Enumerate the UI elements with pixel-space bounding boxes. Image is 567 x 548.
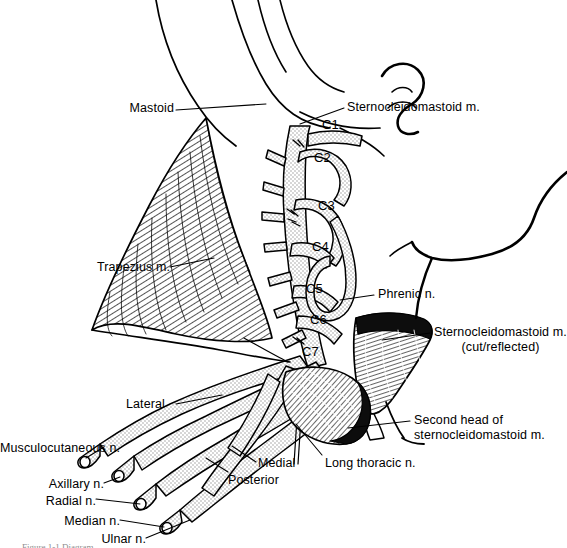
label-musculocutaneous-nerve: Musculocutaneous n. <box>0 441 104 455</box>
label-root-c3: C3 <box>318 198 335 213</box>
label-sternocleidomastoid-top: Sternocleidomastoid m. <box>347 100 480 114</box>
label-second-head-scm-line1: Second head of <box>414 413 503 427</box>
label-posterior-cord: Posterior <box>228 473 279 487</box>
label-mastoid: Mastoid <box>110 101 174 115</box>
label-trapezius: Trapezius m. <box>78 260 170 274</box>
label-radial-nerve: Radial n. <box>0 494 96 508</box>
label-lateral-cord: Lateral <box>126 397 165 411</box>
shoulder-contour-icon <box>386 172 567 444</box>
label-axillary-nerve: Axillary n. <box>0 477 104 491</box>
label-root-c4: C4 <box>312 239 329 254</box>
label-long-thoracic-nerve: Long thoracic n. <box>325 456 416 470</box>
label-root-c1: C1 <box>322 117 339 132</box>
label-root-c7: C7 <box>302 344 319 359</box>
label-scm-cut-reflected-line2: (cut/reflected) <box>434 340 567 354</box>
label-second-head-scm-line2: sternocleidomastoid m. <box>414 428 545 442</box>
figure-caption: Figure 1-1 Diagram <box>22 542 242 548</box>
label-root-c2: C2 <box>314 150 331 165</box>
label-root-c6: C6 <box>310 312 327 327</box>
trapezius-muscle-icon <box>92 118 272 341</box>
head-profile-icon <box>156 0 344 146</box>
label-root-c5: C5 <box>306 281 323 296</box>
label-median-nerve: Median n. <box>0 514 120 528</box>
label-medial-cord: Medial <box>258 456 295 470</box>
label-phrenic-nerve: Phrenic n. <box>378 287 435 301</box>
anatomy-figure: Mastoid Trapezius m. Sternocleidomastoid… <box>0 0 567 548</box>
label-scm-cut-reflected-line1: Sternocleidomastoid m. <box>434 325 567 339</box>
ear-icon <box>382 64 424 134</box>
